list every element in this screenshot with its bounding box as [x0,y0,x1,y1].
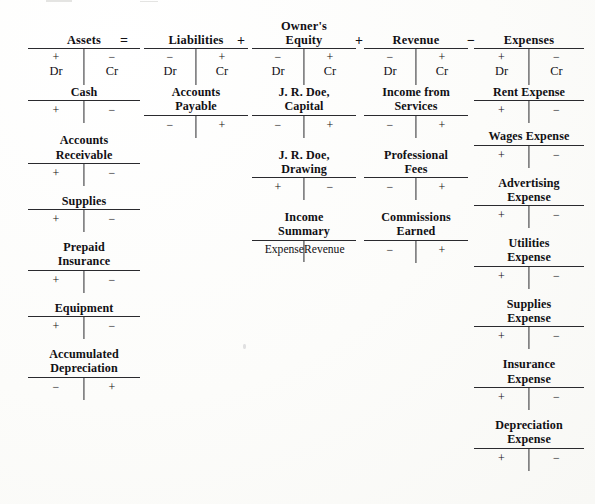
credit-sign: + [304,49,356,64]
account-title: AccountsReceivable [28,133,140,164]
debit-sign: + [474,49,529,64]
account-title-line2: Expense [474,311,584,325]
t-account: Wages Expense+− [474,129,584,167]
account-sign-row: +− [474,206,584,228]
account-gap [28,186,140,194]
debit-label: Dr [474,64,529,79]
credit-column-sign: − [84,210,140,226]
account-title: DepreciationExpense [474,418,584,449]
debit-column-sign: − [28,378,84,394]
account-gap [474,289,584,297]
account-sign-row: −+ [364,116,468,138]
account-sign-row: −+ [28,378,140,400]
account-sign-row: +− [474,267,584,289]
account-title-line1: Supplies [62,194,107,208]
account-title-line2: Expense [474,190,584,204]
debit-side: −Dr [252,49,304,79]
credit-sign: + [416,49,468,64]
account-title-line1: Utilities [508,236,549,250]
account-title-line1: Insurance [503,357,556,371]
credit-column-sign: − [529,146,584,162]
account-gap [364,138,468,148]
account-title: Supplies [28,194,140,210]
group-header-assets: Assets [28,33,140,49]
account-title-line1: Cash [71,85,98,99]
debit-side: −Dr [144,49,196,79]
account-title-line1: Prepaid [63,240,104,254]
equation-columns: =++−Assets+Dr−CrCash+−AccountsReceivable… [0,0,595,504]
debit-credit-header-liabilities: −Dr+Cr [144,49,248,85]
credit-sign: + [196,49,248,64]
account-title-line1: J. R. Doe, [278,85,329,99]
account-title: CommissionsEarned [364,210,468,241]
account-gap [364,200,468,210]
group-header-revenue: Revenue [364,33,468,49]
account-gap [28,232,140,240]
credit-column-sign: − [304,178,356,194]
debit-credit-header-revenue: −Dr+Cr [364,49,468,85]
credit-label: Cr [196,64,248,79]
account-title: Income fromServices [364,85,468,116]
account-gap [252,200,356,210]
credit-column-sign: − [84,271,140,287]
group-header-line2: Equity [252,33,356,47]
account-title-line1: Wages Expense [489,129,570,143]
account-gap [474,168,584,176]
t-account: CommissionsEarned−+ [364,210,468,263]
t-account: AccountsPayable−+ [144,85,248,138]
account-sign-row: +− [474,449,584,471]
account-title-line2: Insurance [28,254,140,268]
account-title-line1: Accumulated [49,347,119,361]
t-account: Equipment+− [28,301,140,339]
group-header-owners-equity: Owner'sEquity [252,19,356,49]
column-owners-equity: Owner'sEquity−Dr+CrJ. R. Doe,Capital−+J.… [252,19,356,262]
credit-side: +Cr [196,49,248,79]
t-account: ProfessionalFees−+ [364,148,468,201]
credit-label: Cr [84,64,140,79]
column-liabilities: Liabilities−Dr+CrAccountsPayable−+ [144,33,248,138]
t-account: Rent Expense+− [474,85,584,123]
credit-column-sign: − [84,101,140,117]
debit-column-sign: + [474,206,529,222]
debit-sign: − [144,49,196,64]
account-title-line2: Payable [144,99,248,113]
account-sign-row: +− [474,101,584,123]
t-account: PrepaidInsurance+− [28,240,140,293]
credit-column-sign: − [84,164,140,180]
account-title-line1: Supplies [507,297,552,311]
account-title-line2: Fees [364,162,468,176]
debit-sign: − [252,49,304,64]
account-sign-row: +− [28,317,140,339]
debit-column-sign: + [474,267,529,283]
t-account: SuppliesExpense+− [474,297,584,350]
account-title-line2: Earned [364,224,468,238]
t-account: Supplies+− [28,194,140,232]
account-sign-row: +− [474,388,584,410]
debit-column-sign: + [474,101,529,117]
credit-side: −Cr [84,49,140,79]
group-header-line1: Liabilities [168,33,223,47]
account-title-line2: Expense [474,372,584,386]
column-revenue: Revenue−Dr+CrIncome fromServices−+Profes… [364,33,468,263]
account-title-line1: Accounts [60,133,109,147]
credit-label: Cr [529,64,584,79]
debit-column-sign: − [144,116,196,132]
group-header-liabilities: Liabilities [144,33,248,49]
debit-column-sign: + [28,210,84,226]
debit-column-sign: − [364,241,416,257]
account-title: J. R. Doe,Drawing [252,148,356,179]
debit-sign: − [364,49,416,64]
t-account: AccountsReceivable+− [28,133,140,186]
credit-column-sign: + [304,116,356,132]
account-title: Equipment [28,301,140,317]
account-title: IncomeSummary [252,210,356,241]
t-account: IncomeSummaryExpenseRevenue [252,210,356,262]
account-gap [474,349,584,357]
account-sign-row: +− [252,178,356,200]
account-title: AccountsPayable [144,85,248,116]
t-account: AdvertisingExpense+− [474,176,584,229]
account-title-line1: Income from [382,85,450,99]
account-gap [252,138,356,148]
account-sign-row: +− [28,164,140,186]
account-title: Cash [28,85,140,101]
